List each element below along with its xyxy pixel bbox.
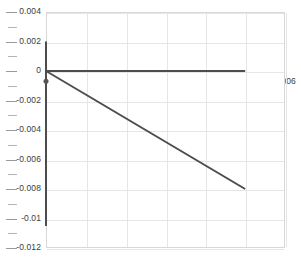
y-major-tick (6, 248, 17, 249)
y-tick-label: 0 (0, 65, 41, 75)
gridline-horizontal (47, 220, 284, 221)
y-major-tick (6, 130, 17, 131)
y-major-tick (6, 101, 17, 102)
chart-figure: 0.0040.0020-0.002-0.004-0.006-0.008-0.01… (0, 0, 301, 264)
gridline-vertical (167, 13, 168, 247)
gridline-horizontal (47, 131, 284, 132)
y-minor-tick (8, 204, 17, 205)
y-major-tick (6, 189, 17, 190)
y-tick-label: -0.006 (0, 154, 41, 164)
gridline-horizontal (47, 249, 284, 250)
y-major-tick (6, 12, 17, 13)
gridline-horizontal (47, 102, 284, 103)
gridline-vertical (286, 13, 287, 247)
y-minor-tick (8, 56, 17, 57)
gridline-vertical (206, 13, 207, 247)
y-major-tick (6, 219, 17, 220)
y-minor-tick (8, 115, 17, 116)
y-minor-tick (8, 174, 17, 175)
y-tick-label: -0.008 (0, 183, 41, 193)
gridline-horizontal (47, 13, 284, 14)
gridline-vertical (127, 13, 128, 247)
y-major-tick (6, 42, 17, 43)
y-tick-label: 0.002 (0, 36, 41, 46)
y-tick-label: 0.004 (0, 6, 41, 16)
gridline-vertical (87, 13, 88, 247)
gridline-horizontal (47, 72, 284, 73)
y-tick-label: -0.004 (0, 124, 41, 134)
y-major-tick (6, 71, 17, 72)
y-major-tick (6, 160, 17, 161)
gridline-horizontal (47, 43, 284, 44)
y-tick-label: -0.002 (0, 95, 41, 105)
plot-area (46, 12, 285, 248)
gridline-vertical (246, 13, 247, 247)
y-minor-tick (8, 145, 17, 146)
gridline-horizontal (47, 161, 284, 162)
y-tick-label: -0.012 (0, 242, 41, 252)
y-tick-label: -0.01 (0, 213, 41, 223)
y-minor-tick (8, 86, 17, 87)
y-minor-tick (8, 27, 17, 28)
gridline-horizontal (47, 190, 284, 191)
y-minor-tick (8, 233, 17, 234)
